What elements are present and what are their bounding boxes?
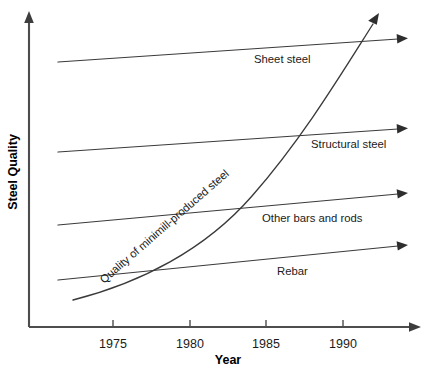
series-label-rebar: Rebar: [277, 265, 308, 277]
x-tick-label-1975: 1975: [99, 337, 127, 351]
series-minimill-quality-curve: Quality of minimill-produced steel: [73, 13, 379, 300]
series-arrowhead-rebar: [397, 241, 408, 250]
y-axis-title: Steel Quality: [6, 134, 20, 210]
series-arrowhead-sheet-steel: [397, 34, 408, 43]
x-tick-label-1985: 1985: [252, 337, 280, 351]
x-axis-title: Year: [215, 353, 242, 367]
series-line-sheet-steel: [58, 39, 398, 62]
series-sheet-steel: Sheet steel: [58, 34, 408, 65]
x-tick-label-1990: 1990: [329, 337, 357, 351]
x-tick-label-1980: 1980: [176, 337, 204, 351]
series-label-other-bars-and-rods: Other bars and rods: [262, 212, 363, 224]
series-arrowhead-other-bars-and-rods: [397, 189, 408, 198]
chart-container: 1975 1980 1985 1990 Year Steel Quality S…: [0, 0, 440, 368]
series-arrowhead-structural-steel: [397, 124, 408, 133]
series-other-bars-and-rods: Other bars and rods: [58, 189, 408, 225]
steel-quality-line-chart: 1975 1980 1985 1990 Year Steel Quality S…: [0, 0, 440, 368]
series-label-structural-steel: Structural steel: [311, 138, 386, 150]
curve-arrowhead-minimill-quality: [368, 13, 379, 25]
x-axis-tick-labels: 1975 1980 1985 1990: [99, 337, 357, 351]
y-axis-arrowhead: [24, 11, 34, 23]
series-label-minimill-quality: Quality of minimill-produced steel: [97, 167, 230, 285]
x-axis-arrowhead: [409, 322, 421, 332]
series-structural-steel: Structural steel: [58, 124, 408, 152]
series-label-sheet-steel: Sheet steel: [254, 53, 311, 65]
